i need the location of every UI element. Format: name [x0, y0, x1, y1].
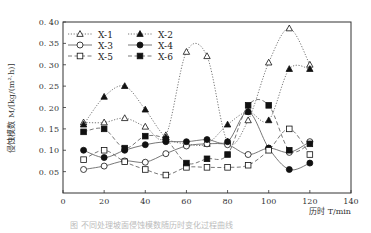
legend-label: X-1 — [98, 30, 113, 40]
line-chart: 0. 050. 100. 150. 200. 250. 300. 350. 40… — [0, 0, 371, 233]
x-tick-label: 120 — [302, 197, 317, 206]
y-tick-label: 0. 20 — [39, 104, 59, 113]
legend-item-x-4: X-4 — [128, 41, 173, 51]
y-tick-label: 0. 30 — [39, 61, 59, 70]
x-tick-label: 80 — [222, 197, 232, 206]
legend-label: X-5 — [98, 52, 113, 62]
y-axis: 0. 050. 100. 150. 200. 250. 300. 350. 40 — [39, 18, 66, 177]
x-axis-title: 历时 T/min — [309, 206, 351, 216]
legend-label: X-2 — [158, 30, 173, 40]
x-tick-label: 0 — [60, 197, 65, 206]
legend-label: X-4 — [158, 41, 173, 51]
y-tick-label: 0. 05 — [39, 168, 59, 177]
legend-item-x-2: X-2 — [128, 30, 173, 40]
legend: X-1X-2X-3X-4X-5X-6 — [68, 30, 173, 62]
y-tick-label: 0. 35 — [39, 39, 59, 48]
x-axis: 020406080100120140 — [60, 190, 358, 206]
series-layer — [80, 25, 313, 178]
legend-label: X-6 — [158, 52, 173, 62]
x-tick-label: 20 — [99, 197, 109, 206]
legend-label: X-3 — [98, 41, 113, 51]
series-x-2 — [80, 65, 313, 146]
legend-item-x-6: X-6 — [128, 52, 173, 62]
x-tick-label: 140 — [343, 197, 358, 206]
figure-caption: 图 不同处理坡面侵蚀模数随历时变化过程曲线 — [70, 219, 370, 230]
y-tick-label: 0. 40 — [39, 18, 59, 27]
legend-item-x-3: X-3 — [68, 41, 113, 51]
y-tick-label: 0. 25 — [39, 82, 59, 91]
x-tick-label: 60 — [181, 197, 191, 206]
y-tick-label: 0. 10 — [39, 146, 59, 155]
y-tick-label: 0. 15 — [39, 125, 59, 134]
legend-item-x-5: X-5 — [68, 52, 113, 62]
series-x-5 — [81, 126, 313, 178]
series-x-1 — [80, 25, 313, 145]
x-tick-label: 40 — [140, 197, 150, 206]
legend-item-x-1: X-1 — [68, 30, 113, 40]
x-tick-label: 100 — [261, 197, 276, 206]
y-axis-title: 侵蚀模数 M/[kg/(m²·h)] — [6, 63, 16, 152]
